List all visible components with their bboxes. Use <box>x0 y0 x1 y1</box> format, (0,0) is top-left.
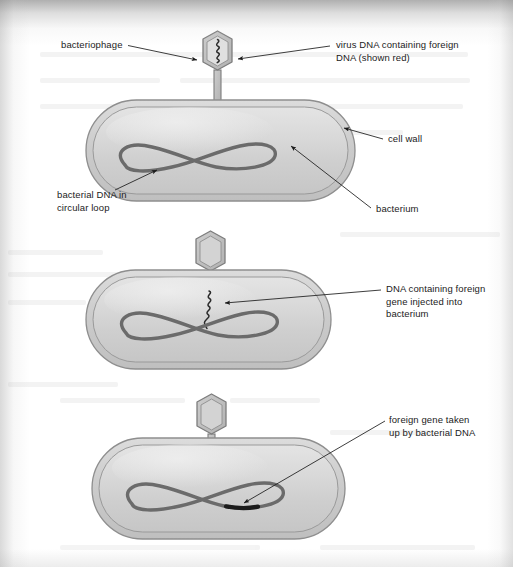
foreign-gene-segment <box>226 506 258 508</box>
label-virus-dna: virus DNA containing foreign DNA (shown … <box>336 39 511 64</box>
label-foreign-gene-taken: foreign gene taken up by bacterial DNA <box>389 414 511 439</box>
stage-1-bacterium <box>86 100 355 201</box>
label-bacterium: bacterium <box>376 203 419 216</box>
stage-2-group <box>86 231 331 369</box>
leader-bacteriophage <box>128 46 197 61</box>
stage-3-bacterium <box>92 438 345 539</box>
stage-1-phage <box>203 31 232 104</box>
label-bacterial-dna: bacterial DNA in circular loop <box>57 189 192 214</box>
label-dna-injected: DNA containing foreign gene injected int… <box>386 283 512 321</box>
diagram-page: bacteriophage virus DNA containing forei… <box>0 0 513 567</box>
leader-virus-dna <box>238 46 330 59</box>
label-bacteriophage: bacteriophage <box>61 39 123 52</box>
stage-1-group <box>86 31 355 201</box>
label-cell-wall: cell wall <box>388 133 422 146</box>
stage-2-bacterium <box>86 270 331 369</box>
